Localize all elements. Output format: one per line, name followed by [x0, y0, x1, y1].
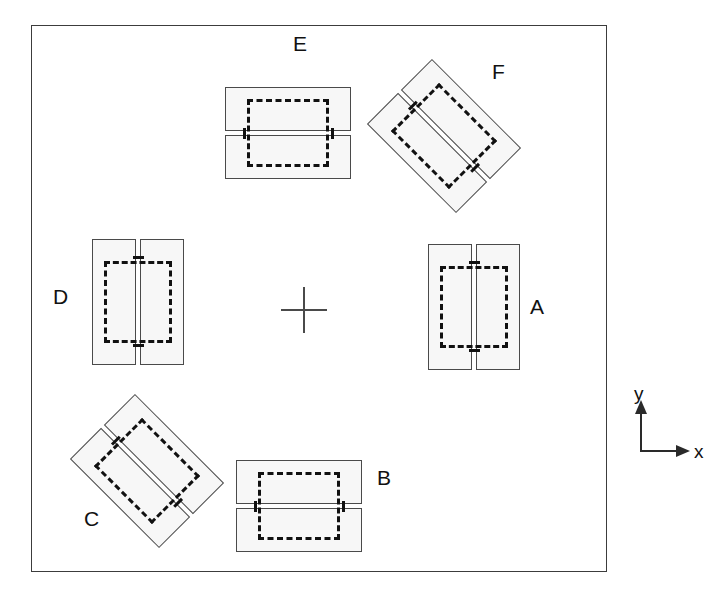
specimen-a: [428, 244, 520, 370]
center-crosshair-icon: [281, 287, 327, 333]
specimen-tick-top: [342, 501, 345, 512]
axis-label-y: y: [634, 384, 644, 403]
diagram-canvas: A B C D E F: [0, 0, 726, 591]
specimen-label-a: A: [530, 296, 544, 317]
specimen-d: [92, 239, 184, 365]
specimen-dashed-outline: [104, 261, 172, 343]
specimen-tick-top: [133, 256, 144, 259]
specimen-b: [236, 460, 362, 552]
specimen-e: [225, 87, 351, 179]
axis-label-x: x: [694, 442, 704, 461]
axis-x-arrow-icon: [676, 445, 690, 457]
specimen-label-c: C: [84, 508, 99, 529]
specimen-tick-bottom: [254, 501, 257, 512]
specimen-tick-top: [331, 128, 334, 139]
axis-x-line: [640, 450, 678, 452]
specimen-label-f: F: [492, 61, 505, 82]
specimen-tick-top: [469, 261, 480, 264]
specimen-dashed-outline: [440, 266, 508, 348]
specimen-tick-bottom: [469, 349, 480, 352]
specimen-tick-bottom: [133, 344, 144, 347]
specimen-label-b: B: [377, 467, 391, 488]
crosshair-vertical-line: [303, 287, 305, 333]
specimen-tick-bottom: [243, 128, 246, 139]
specimen-label-e: E: [293, 33, 307, 54]
specimen-dashed-outline: [258, 472, 340, 540]
specimen-dashed-outline: [247, 99, 329, 167]
axis-y-line: [640, 412, 642, 452]
specimen-label-d: D: [53, 286, 68, 307]
